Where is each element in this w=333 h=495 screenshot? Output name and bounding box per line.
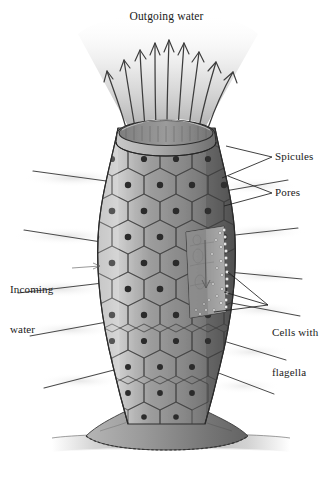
outgoing-water-title: Outgoing water <box>0 9 333 23</box>
label-pores: Pores <box>275 186 300 199</box>
pore <box>173 338 179 344</box>
osculum <box>116 118 216 156</box>
label-spicules: Spicules <box>275 150 313 163</box>
label-cells-line2: flagella <box>272 366 318 379</box>
leader-spicules-a <box>226 146 272 157</box>
pore <box>253 286 260 293</box>
sponge-diagram <box>0 0 333 495</box>
pore <box>237 156 243 162</box>
pore <box>141 414 147 420</box>
pore <box>141 260 148 267</box>
pore <box>221 364 227 370</box>
pore <box>141 208 148 215</box>
label-incoming-water: Incoming water <box>10 256 53 350</box>
pore <box>157 390 163 396</box>
pore <box>173 414 179 420</box>
pore <box>141 312 147 318</box>
pore <box>125 364 131 370</box>
pore <box>157 234 164 241</box>
pore <box>173 156 179 162</box>
pore <box>189 390 195 396</box>
pore <box>173 260 180 267</box>
pore <box>125 286 132 293</box>
pore <box>125 390 131 396</box>
label-cells-line1: Cells with <box>272 326 318 339</box>
label-incoming-line1: Incoming <box>10 283 53 296</box>
leader-spicules-b <box>222 157 272 178</box>
pore <box>125 234 132 241</box>
pore <box>157 364 163 370</box>
pore <box>141 156 147 162</box>
spicule <box>208 372 280 394</box>
spicule <box>38 370 122 389</box>
pore <box>173 208 180 215</box>
pore <box>237 208 244 215</box>
pore <box>173 312 179 318</box>
pore <box>189 182 195 188</box>
incoming-water-indicator <box>72 263 100 269</box>
label-incoming-line2: water <box>10 323 53 336</box>
pore <box>237 338 243 344</box>
pore <box>237 260 244 267</box>
pore <box>125 182 131 188</box>
label-cells-with-flagella: Cells with flagella <box>272 299 318 393</box>
pore <box>141 338 147 344</box>
pore <box>189 364 195 370</box>
pore <box>157 286 164 293</box>
leader-pores-b <box>224 193 272 206</box>
pore <box>157 182 163 188</box>
